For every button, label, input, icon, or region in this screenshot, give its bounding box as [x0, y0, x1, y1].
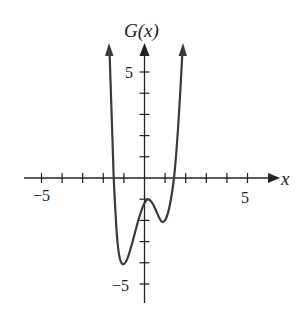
x-axis-label: x — [280, 168, 290, 189]
graph-canvas: G(x) x −5 5 5 −5 — [0, 0, 299, 315]
curve-left-arrow-icon — [105, 43, 114, 56]
curve-g-of-x — [105, 43, 187, 264]
y-tick-label-pos5: 5 — [125, 64, 133, 81]
curve-right-arrow-icon — [179, 43, 188, 56]
y-axis — [140, 43, 150, 303]
x-tick-label-neg5: −5 — [33, 187, 50, 204]
y-tick-label-neg5: −5 — [112, 277, 129, 294]
x-axis — [24, 173, 280, 183]
y-axis-arrow-icon — [140, 43, 150, 56]
x-tick-label-pos5: 5 — [241, 189, 249, 206]
x-axis-arrow-icon — [268, 173, 280, 183]
y-axis-label: G(x) — [124, 20, 159, 42]
